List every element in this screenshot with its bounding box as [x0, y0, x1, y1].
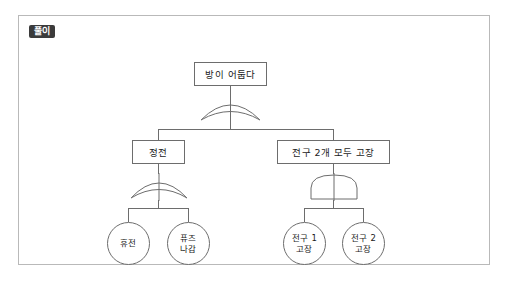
- leaf-node-3-line2: 고장: [296, 244, 313, 255]
- leaf-node-2-line2: 나감: [180, 244, 197, 255]
- leaf-node-2: 퓨즈 나감: [167, 222, 210, 265]
- leaf-node-2-line1: 퓨즈: [180, 233, 197, 244]
- leaf-node-4-line1: 전구 2: [351, 233, 376, 244]
- node-mid-right-label: 전구 2개 모두 고장: [292, 145, 375, 159]
- node-mid-left: 정전: [132, 140, 185, 164]
- leaf-node-4-line2: 고장: [355, 244, 372, 255]
- leaf-node-1: 휴전: [107, 222, 150, 265]
- and-gate-right: [307, 173, 361, 201]
- leaf-node-3-line1: 전구 1: [292, 233, 317, 244]
- leaf-node-1-line1: 휴전: [120, 238, 137, 249]
- fault-tree-diagram: 방이 어둡다 정전 전구 2개 모두 고장: [19, 16, 491, 266]
- node-top-label: 방이 어둡다: [205, 67, 255, 81]
- node-mid-right: 전구 2개 모두 고장: [277, 140, 390, 164]
- node-mid-left-label: 정전: [149, 145, 168, 159]
- or-gate-left: [129, 173, 189, 201]
- connector-lines: [19, 16, 491, 266]
- content-frame: 풀이: [18, 15, 490, 265]
- leaf-node-3: 전구 1 고장: [283, 222, 326, 265]
- page-canvas: 풀이: [0, 0, 510, 284]
- or-gate-top: [199, 95, 262, 123]
- leaf-node-4: 전구 2 고장: [342, 222, 385, 265]
- node-top: 방이 어둡다: [194, 62, 267, 86]
